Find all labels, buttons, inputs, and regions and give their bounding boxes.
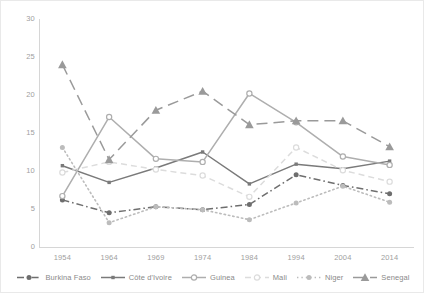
legend-swatch-icon [100,273,126,282]
data-point-marker-triangle [339,117,348,125]
data-point-marker-square [61,164,64,167]
plot-area [39,19,413,247]
line-chart: 051015202530 195419641969197419841994200… [0,0,424,293]
x-tick-label: 1964 [100,253,118,262]
y-tick-label: 10 [5,167,35,175]
x-axis-line [39,247,414,248]
legend-item-mali[interactable]: Mali [244,273,287,282]
data-point-marker-circle [306,275,311,280]
series-burkina-faso [60,172,392,215]
data-point-marker-circle-open [191,274,196,279]
legend-label: Senegal [381,273,409,282]
legend-label: Niger [325,273,343,282]
x-tick-label: 2014 [381,253,399,262]
data-point-marker-circle [247,202,252,207]
x-tick-label: 2004 [334,253,352,262]
legend-label: Mali [273,273,287,282]
x-tick-label: 1954 [54,253,72,262]
x-tick-label: 1974 [194,253,212,262]
series-line [62,175,389,213]
data-point-marker-square [107,181,110,184]
x-tick-label: 1969 [147,253,165,262]
series-senegal [58,60,394,163]
data-point-marker-circle-open [254,274,259,279]
series-line [62,65,389,160]
series-mali [60,145,392,200]
data-point-marker-circle [153,204,158,209]
data-point-marker-circle [247,217,252,222]
data-point-marker-circle [387,200,392,205]
y-tick-label: 20 [5,91,35,99]
data-point-marker-circle [60,145,65,150]
data-point-marker-circle-open [200,159,205,164]
data-point-marker-circle-open [387,162,392,167]
data-point-marker-circle [294,172,299,177]
chart-legend: Burkina FasoCôte d'IvoireGuineaMaliNiger… [1,269,424,285]
data-point-marker-square [248,182,251,185]
data-point-marker-circle-open [247,91,252,96]
legend-item-niger[interactable]: Niger [296,273,343,282]
data-point-marker-circle-open [294,145,299,150]
data-point-marker-circle [107,220,112,225]
data-point-marker-triangle [198,87,207,95]
y-tick-label: 25 [5,53,35,61]
legend-label: Côte d'Ivoire [129,273,172,282]
data-point-marker-circle-open [200,173,205,178]
legend-swatch-icon [244,273,270,282]
data-point-marker-square [294,162,297,165]
x-tick-label: 1984 [241,253,259,262]
data-point-marker-circle [387,191,392,196]
legend-item-c-te-d-ivoire[interactable]: Côte d'Ivoire [100,273,172,282]
legend-swatch-icon [352,273,378,282]
data-point-marker-circle-open [340,154,345,159]
data-point-marker-circle-open [60,193,65,198]
data-point-marker-triangle [385,142,394,150]
plot-series-svg [39,19,413,247]
data-point-marker-circle [200,207,205,212]
data-point-marker-triangle [58,60,67,68]
data-point-marker-square [201,150,204,153]
data-point-marker-circle-open [107,114,112,119]
y-tick-label: 5 [5,205,35,213]
data-point-marker-circle-open [60,170,65,175]
legend-label: Burkina Faso [45,273,90,282]
data-point-marker-circle [294,200,299,205]
data-point-marker-circle [107,210,112,215]
data-point-marker-circle-open [387,179,392,184]
legend-item-burkina-faso[interactable]: Burkina Faso [16,273,90,282]
y-axis-labels: 051015202530 [1,1,35,293]
data-point-marker-circle-open [247,194,252,199]
data-point-marker-circle [27,275,32,280]
data-point-marker-circle [340,184,345,189]
y-tick-label: 30 [5,15,35,23]
y-tick-label: 15 [5,129,35,137]
legend-label: Guinea [210,273,235,282]
data-point-marker-triangle [245,120,254,128]
data-point-marker-square [111,275,114,278]
legend-swatch-icon [16,273,42,282]
y-tick-label: 0 [5,243,35,251]
x-axis-labels: 19541964196919741984199420042014 [39,253,413,267]
legend-swatch-icon [181,273,207,282]
data-point-marker-circle-open [153,167,158,172]
legend-item-guinea[interactable]: Guinea [181,273,235,282]
data-point-marker-triangle [152,106,161,114]
data-point-marker-circle-open [340,168,345,173]
legend-item-senegal[interactable]: Senegal [352,273,409,282]
series-line [62,93,389,196]
data-point-marker-circle-open [153,156,158,161]
x-tick-label: 1994 [287,253,305,262]
legend-swatch-icon [296,273,322,282]
